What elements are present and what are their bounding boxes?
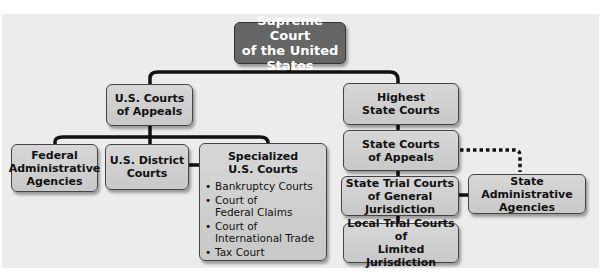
node-highest-state-courts: Highest State Courts [343, 83, 459, 125]
node-state-administrative-agencies: State Administrative Agencies [468, 174, 586, 214]
node-us-district-courts: U.S. District Courts [105, 144, 189, 190]
node-state-courts-of-appeals: State Courts of Appeals [343, 130, 459, 171]
node-federal-administrative-agencies: Federal Administrative Agencies [11, 144, 98, 192]
list-item: Bankruptcy Courts [203, 180, 323, 193]
node-local-trial-courts-limited: Local Trial Courts of Limited Jurisdicti… [343, 223, 459, 263]
list-item: Court of Federal Claims [203, 194, 295, 219]
specialized-courts-list: Bankruptcy Courts Court of Federal Claim… [203, 180, 323, 259]
node-specialized-us-courts: Specialized U.S. Courts Bankruptcy Court… [199, 143, 327, 261]
node-us-courts-of-appeals: U.S. Courts of Appeals [106, 84, 193, 126]
list-item: Tax Court [203, 246, 323, 259]
list-item: Court of International Trade [203, 220, 323, 245]
node-state-trial-courts-general: State Trial Courts of General Jurisdicti… [341, 176, 459, 216]
node-supreme-court: Supreme Court of the United States [234, 22, 346, 64]
